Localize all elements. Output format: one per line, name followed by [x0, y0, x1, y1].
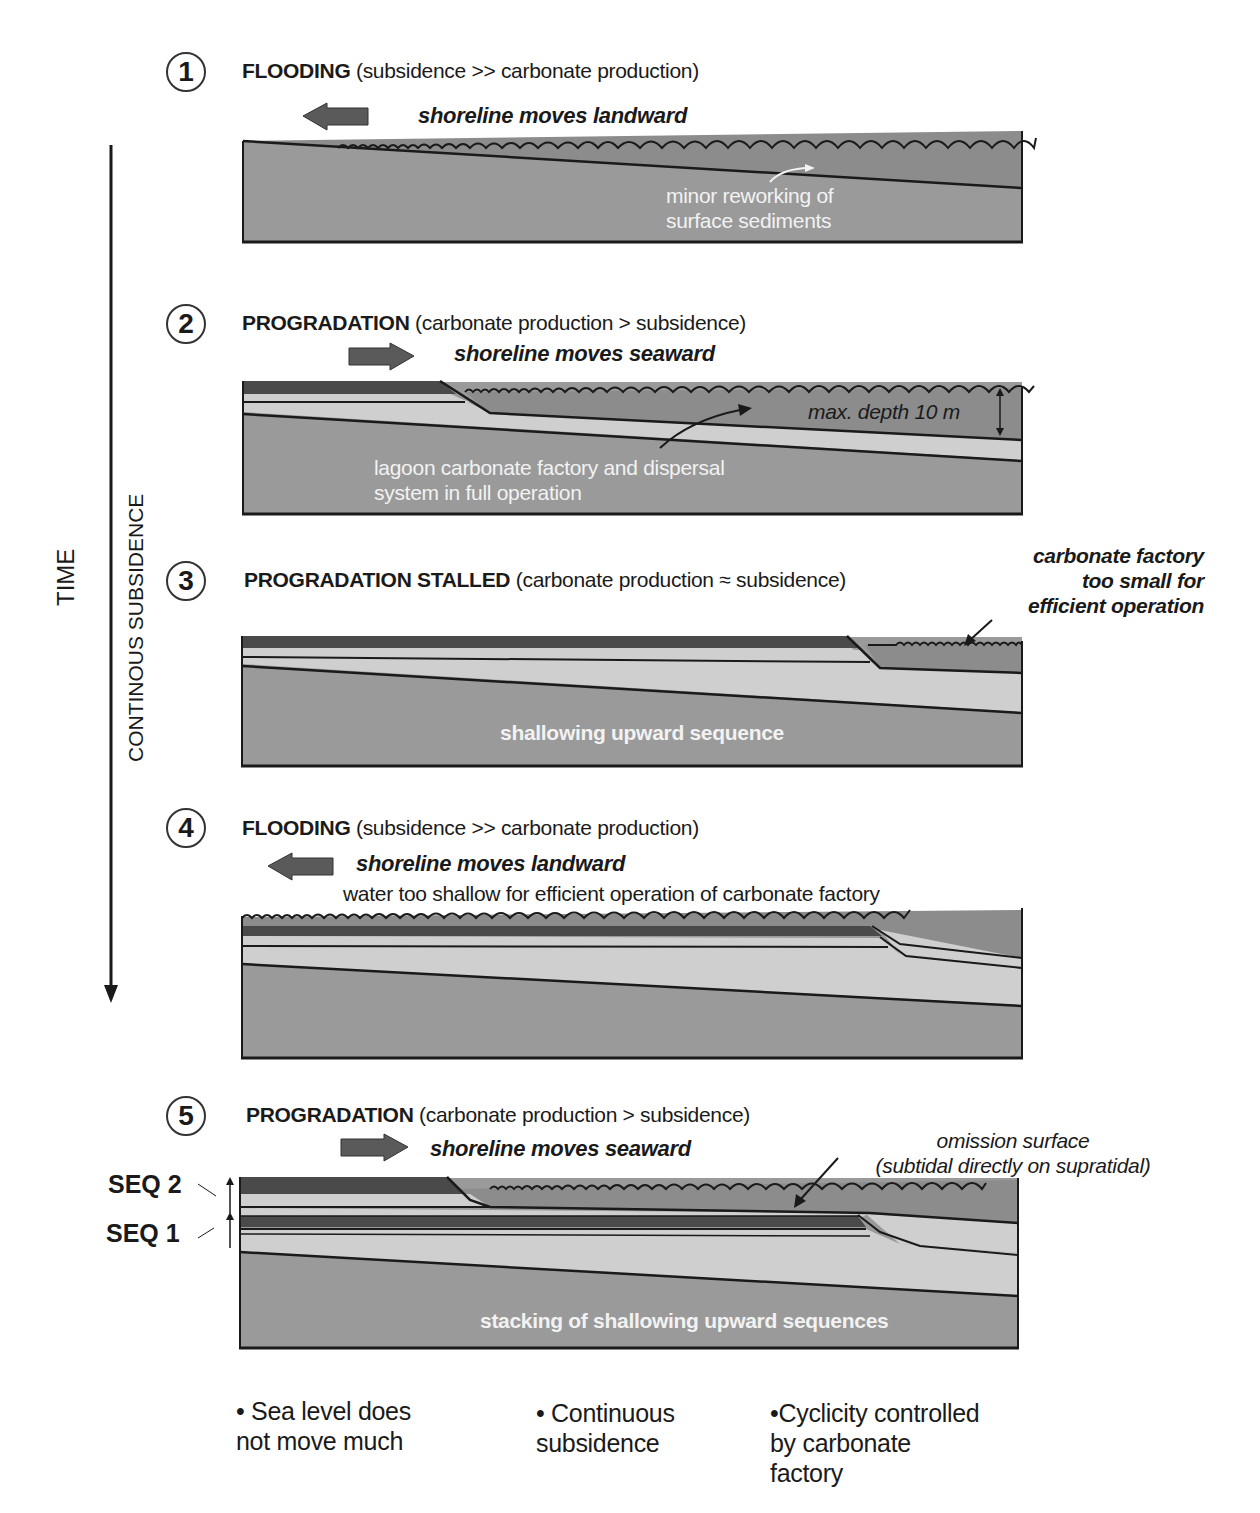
annotation-line: lagoon carbonate factory and dispersal: [374, 455, 725, 480]
annotation-line: surface sediments: [666, 208, 833, 233]
panel-1-landward-arrow: [303, 103, 368, 130]
time-axis-arrow: [104, 145, 118, 1003]
panel-1-title: FLOODING (subsidence >> carbonate produc…: [242, 59, 699, 83]
panel-1-annotation: minor reworking of surface sediments: [666, 183, 833, 233]
bullet-cyclicity: •Cyclicity controlled by carbonate facto…: [770, 1398, 979, 1488]
bullet-subsidence: • Continuous subsidence: [536, 1398, 675, 1458]
omission-note-line: omission surface: [848, 1128, 1178, 1153]
panel-5-seaward-arrow: [341, 1134, 408, 1161]
panel-2-title-bold: PROGRADATION: [242, 311, 410, 334]
panel-5-omission-note: omission surface (subtidal directly on s…: [848, 1128, 1178, 1178]
panel-4-landward-arrow: [268, 853, 333, 880]
panel-1-cross-section: [242, 131, 1036, 243]
panel-4-shoreline-label: shoreline moves landward: [356, 851, 625, 877]
panel-4-title-bold: FLOODING: [242, 816, 350, 839]
panel-2-title-detail: (carbonate production > subsidence): [410, 311, 747, 334]
panel-5-title-detail: (carbonate production > subsidence): [414, 1103, 751, 1126]
panel-1-title-detail: (subsidence >> carbonate production): [350, 59, 698, 82]
panel-3-title: PROGRADATION STALLED (carbonate producti…: [244, 568, 846, 592]
panel-2-shoreline-label: shoreline moves seaward: [454, 341, 715, 367]
panel-3-number-badge: 3: [166, 561, 206, 601]
panel-4-title: FLOODING (subsidence >> carbonate produc…: [242, 816, 699, 840]
panel-1-shoreline-label: shoreline moves landward: [418, 103, 687, 129]
panel-3-title-detail: (carbonate production ≈ subsidence): [510, 568, 846, 591]
panel-3-side-note: carbonate factory too small for efficien…: [990, 543, 1204, 618]
panel-5-title: PROGRADATION (carbonate production > sub…: [246, 1103, 750, 1127]
panel-2-annotation: lagoon carbonate factory and dispersal s…: [374, 455, 725, 505]
panel-4-cross-section: [241, 908, 1023, 1059]
panel-5-number-badge: 5: [166, 1096, 206, 1136]
bullet-sea-level: • Sea level does not move much: [236, 1396, 411, 1456]
panel-5-title-bold: PROGRADATION: [246, 1103, 414, 1126]
subsidence-axis-label: CONTINOUS SUBSIDENCE: [124, 494, 148, 762]
side-note-line: too small for: [990, 568, 1204, 593]
panel-1-number-badge: 1: [166, 52, 206, 92]
panel-2-seaward-arrow: [349, 343, 414, 370]
omission-note-line: (subtidal directly on supratidal): [848, 1153, 1178, 1178]
annotation-line: system in full operation: [374, 480, 725, 505]
panel-4-note: water too shallow for efficient operatio…: [343, 882, 880, 906]
panel-5-inner-label: stacking of shallowing upward sequences: [480, 1309, 888, 1333]
panel-3-title-bold: PROGRADATION STALLED: [244, 568, 510, 591]
panel-5-shoreline-label: shoreline moves seaward: [430, 1136, 691, 1162]
seq-2-label: SEQ 2: [108, 1170, 182, 1199]
seq-1-label: SEQ 1: [106, 1219, 180, 1248]
side-note-line: carbonate factory: [990, 543, 1204, 568]
panel-2-number-badge: 2: [166, 304, 206, 344]
panel-4-title-detail: (subsidence >> carbonate production): [350, 816, 698, 839]
panel-4-number-badge: 4: [166, 808, 206, 848]
side-note-line: efficient operation: [990, 593, 1204, 618]
panel-3-inner-label: shallowing upward sequence: [500, 721, 784, 745]
panel-2-title: PROGRADATION (carbonate production > sub…: [242, 311, 746, 335]
panel-2-depth-label: max. depth 10 m: [808, 400, 960, 424]
panel-1-title-bold: FLOODING: [242, 59, 350, 82]
annotation-line: minor reworking of: [666, 183, 833, 208]
time-axis-label: TIME: [52, 549, 80, 606]
diagram-artwork: [0, 0, 1260, 1513]
